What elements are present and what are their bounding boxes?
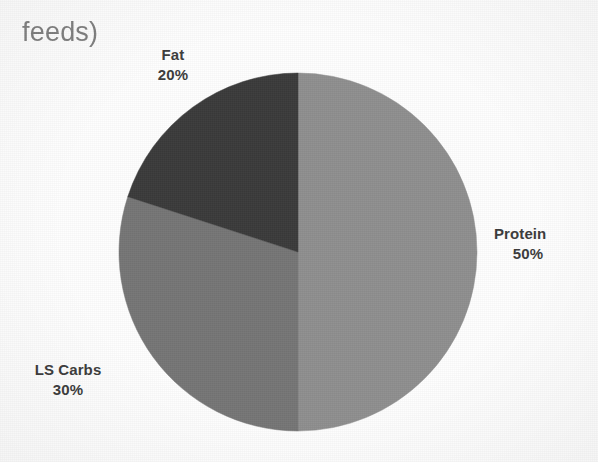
pie-label-ls-carbs: LS Carbs 30% [16,360,120,400]
chart-title: (shown as % of feeds) [22,0,209,48]
pie-label-protein: Protein 50% [494,224,584,264]
pie-label-protein-value: 50% [494,244,562,264]
pie-label-protein-name: Protein [494,225,546,242]
pie-label-fat: Fat 20% [136,45,210,85]
pie-chart [118,72,478,432]
pie-label-fat-name: Fat [162,46,185,63]
pie-label-ls-carbs-value: 30% [16,380,120,400]
pie-label-fat-value: 20% [136,65,210,85]
pie-label-ls-carbs-name: LS Carbs [35,361,102,378]
chart-title-line-1-clipped: (shown as % of [22,0,209,16]
pie-chart-svg [118,72,478,432]
chart-page: (shown as % of feeds) Fat 20% Protein 50… [0,0,598,462]
pie-slice-protein [298,73,477,431]
chart-title-line-2: feeds) [22,16,209,48]
